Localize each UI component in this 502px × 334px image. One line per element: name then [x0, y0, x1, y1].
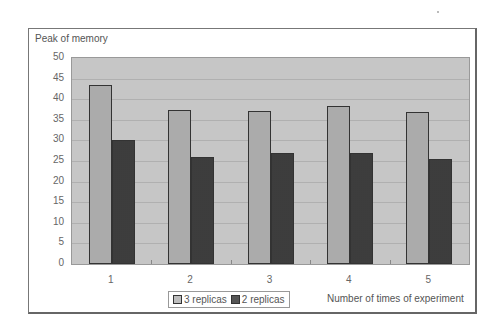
- bar-2-replicas-3: [271, 153, 294, 264]
- x-tick-mark: [231, 260, 232, 264]
- y-tick-label: 15: [38, 195, 64, 206]
- y-axis-title: Peak of memory: [35, 33, 108, 44]
- y-tick-label: 45: [38, 72, 64, 83]
- legend-swatch-dark-icon: [231, 295, 240, 304]
- bar-2-replicas-2: [191, 157, 214, 264]
- legend-label: 3 replicas: [184, 294, 227, 305]
- x-tick-label: 1: [96, 274, 126, 285]
- y-tick-label: 5: [38, 236, 64, 247]
- legend: 3 replicas 2 replicas: [168, 291, 290, 308]
- bar-3-replicas-2: [168, 110, 191, 264]
- legend-swatch-light-icon: [173, 295, 182, 304]
- legend-item-3-replicas: 3 replicas: [173, 294, 227, 305]
- y-tick-label: 35: [38, 113, 64, 124]
- y-tick-label: 30: [38, 133, 64, 144]
- y-tick-label: 20: [38, 175, 64, 186]
- plot-area: [71, 57, 470, 265]
- bar-2-replicas-1: [112, 140, 135, 264]
- legend-item-2-replicas: 2 replicas: [231, 294, 285, 305]
- x-tick-label: 3: [255, 274, 285, 285]
- y-tick-label: 10: [38, 216, 64, 227]
- bar-3-replicas-1: [89, 85, 112, 264]
- x-tick-label: 5: [413, 274, 443, 285]
- y-tick-label: 50: [38, 51, 64, 62]
- gridline: [72, 79, 469, 80]
- bar-3-replicas-3: [248, 111, 271, 264]
- y-tick-label: 25: [38, 154, 64, 165]
- bar-2-replicas-5: [429, 159, 452, 264]
- y-tick-label: 0: [38, 257, 64, 268]
- scan-artifact: [437, 11, 439, 13]
- x-tick-mark: [310, 260, 311, 264]
- bar-3-replicas-5: [406, 112, 429, 264]
- gridline: [72, 99, 469, 100]
- y-tick-label: 40: [38, 92, 64, 103]
- legend-label: 2 replicas: [242, 294, 285, 305]
- x-axis-title: Number of times of experiment: [327, 293, 464, 304]
- x-tick-mark: [390, 260, 391, 264]
- x-tick-mark: [151, 260, 152, 264]
- bar-2-replicas-4: [350, 153, 373, 264]
- bar-3-replicas-4: [327, 106, 350, 264]
- x-tick-label: 4: [334, 274, 364, 285]
- x-tick-label: 2: [175, 274, 205, 285]
